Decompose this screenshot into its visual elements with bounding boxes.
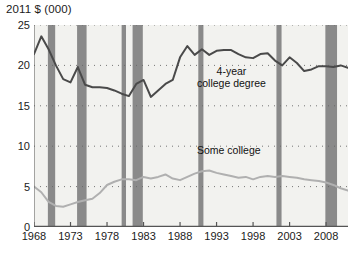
recession-band xyxy=(325,25,337,227)
recession-band xyxy=(122,25,126,227)
series-label-some-college: Some college xyxy=(197,145,261,157)
x-axis-tick-label: 2003 xyxy=(270,230,310,242)
recession-band xyxy=(133,25,143,227)
y-axis-tick-label: 25 xyxy=(4,20,30,30)
plot-svg xyxy=(34,25,348,227)
y-axis-tick-label: 5 xyxy=(4,182,30,192)
recession-band xyxy=(77,25,86,227)
y-axis-tick-label: 10 xyxy=(4,141,30,151)
x-axis-tick-label: 1988 xyxy=(160,230,200,242)
y-axis-tick-label: 20 xyxy=(4,60,30,70)
x-axis-tick-label: 1993 xyxy=(197,230,237,242)
series-label-four-year-line2: college degree xyxy=(197,78,266,90)
recession-band xyxy=(276,25,281,227)
x-axis-tick-label: 1978 xyxy=(87,230,127,242)
x-axis-tick-label: 1968 xyxy=(14,230,54,242)
x-axis-tick-label: 1983 xyxy=(124,230,164,242)
x-axis-tick-label: 1973 xyxy=(51,230,91,242)
recession-band xyxy=(198,25,203,227)
series-label-four-year-line1: 4-year xyxy=(197,66,266,78)
x-axis-tick-label: 1998 xyxy=(233,230,273,242)
chart-figure: 2011 $ (000) 0510152025 4-year college d… xyxy=(0,0,362,253)
plot-area xyxy=(34,25,348,227)
x-axis-tick-label: 2008 xyxy=(306,230,346,242)
y-axis-tick-labels: 0510152025 xyxy=(0,0,30,253)
series-label-four-year: 4-year college degree xyxy=(197,66,266,89)
y-axis-tick-label: 15 xyxy=(4,101,30,111)
